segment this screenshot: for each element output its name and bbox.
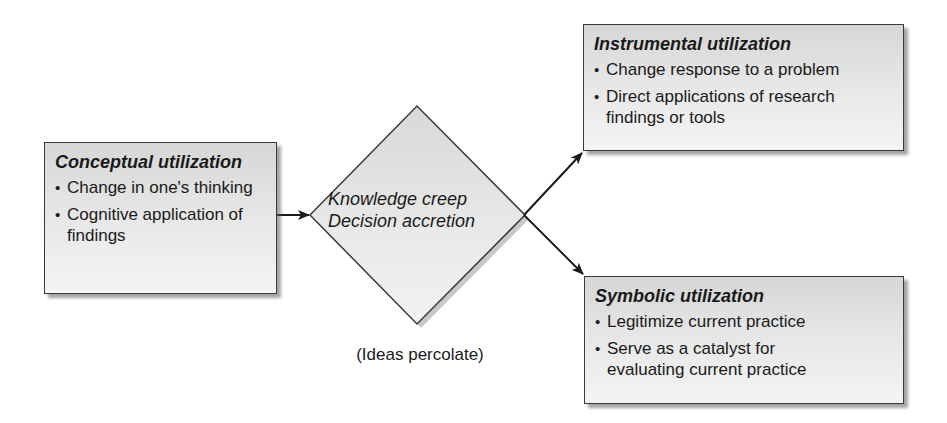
knowledge-creep-label: Knowledge creep	[328, 188, 538, 210]
instrumental-utilization-box: Instrumental utilization Change response…	[583, 24, 904, 151]
decision-accretion-label: Decision accretion	[328, 210, 538, 232]
bullet-item: Cognitive application of findings	[55, 204, 268, 246]
bullet-item: Direct applications of research findings…	[594, 86, 876, 128]
symbolic-utilization-box: Symbolic utilization Legitimize current …	[584, 276, 904, 404]
instrumental-utilization-title: Instrumental utilization	[594, 33, 895, 55]
conceptual-utilization-box: Conceptual utilization Change in one's t…	[44, 142, 277, 294]
symbolic-utilization-title: Symbolic utilization	[595, 285, 895, 307]
bullet-item: Serve as a catalyst for evaluating curre…	[595, 338, 847, 380]
ideas-percolate-caption: (Ideas percolate)	[340, 345, 500, 365]
conceptual-utilization-title: Conceptual utilization	[55, 151, 268, 173]
process-diamond-label: Knowledge creep Decision accretion	[318, 188, 538, 232]
bullet-item: Change in one's thinking	[55, 177, 268, 198]
conceptual-utilization-bullets: Change in one's thinking Cognitive appli…	[55, 177, 268, 246]
symbolic-utilization-bullets: Legitimize current practice Serve as a c…	[595, 311, 895, 380]
bullet-item: Legitimize current practice	[595, 311, 895, 332]
bullet-item: Change response to a problem	[594, 59, 895, 80]
instrumental-utilization-bullets: Change response to a problem Direct appl…	[594, 59, 895, 128]
